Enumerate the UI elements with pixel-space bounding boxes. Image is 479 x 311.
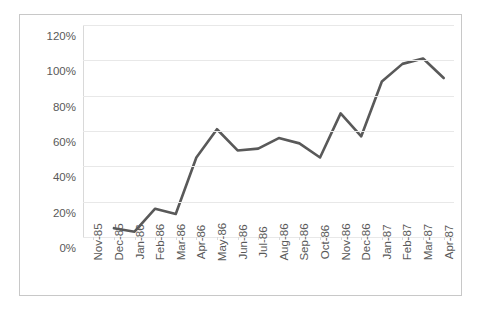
gridline	[83, 25, 454, 26]
x-axis-tick-label: Mar-86	[176, 224, 188, 260]
y-axis-tick-label: 100%	[47, 66, 76, 78]
x-axis-tick-label: Apr-86	[196, 225, 208, 260]
x-axis-tick-label: Jan-86	[135, 224, 147, 259]
x-axis-tick: Dec-85	[107, 240, 121, 292]
y-axis-tick-label: 0%	[59, 243, 76, 255]
x-axis-tick: Jan-86	[128, 240, 142, 292]
x-axis-tick-label: Feb-87	[402, 224, 414, 260]
x-axis-tick: Feb-86	[148, 240, 162, 292]
y-axis-tick-label: 20%	[53, 208, 76, 220]
x-axis-tick-label: Dec-86	[361, 223, 373, 260]
x-axis-tick: May-86	[210, 240, 224, 292]
x-axis-tick-label: Nov-86	[341, 223, 353, 260]
x-axis-tick: Feb-87	[395, 240, 409, 292]
y-axis-tick-label: 60%	[53, 137, 76, 149]
x-axis-tick-label: May-86	[217, 223, 229, 261]
gridline	[83, 131, 454, 132]
x-axis-tick: Apr-86	[189, 240, 203, 292]
x-axis-tick: Dec-86	[354, 240, 368, 292]
x-axis-tick-label: Sep-86	[299, 223, 311, 260]
x-axis-tick: Oct-86	[313, 240, 327, 292]
x-axis-tick: Apr-87	[437, 240, 451, 292]
gridline	[83, 202, 454, 203]
x-axis-tick: Jun-86	[231, 240, 245, 292]
x-axis-tick-label: Mar-87	[423, 224, 435, 260]
x-axis-tick-label: Jan-87	[382, 224, 394, 259]
y-axis-tick-label: 40%	[53, 172, 76, 184]
chart-container: 0%20%40%60%80%100%120% Nov-85Dec-85Jan-8…	[0, 0, 479, 311]
line-series-path	[114, 59, 444, 232]
x-axis-tick-label: Feb-86	[155, 224, 167, 260]
y-axis: 0%20%40%60%80%100%120%	[28, 14, 76, 296]
x-axis-tick-label: Apr-87	[444, 225, 456, 260]
x-axis-tick-label: Aug-86	[279, 223, 291, 260]
x-axis-tick-label: Oct-86	[320, 225, 332, 260]
x-axis-tick: Nov-85	[86, 240, 100, 292]
x-axis-tick: Aug-86	[272, 240, 286, 292]
gridline	[83, 166, 454, 167]
x-axis-tick-label: Jun-86	[238, 224, 250, 259]
x-axis-tick: Nov-86	[334, 240, 348, 292]
plot-area	[83, 25, 454, 237]
y-axis-tick-label: 80%	[53, 102, 76, 114]
y-axis-tick-label: 120%	[47, 31, 76, 43]
x-axis-tick-label: Jul-86	[258, 226, 270, 257]
gridline	[83, 96, 454, 97]
x-axis-tick: Mar-86	[169, 240, 183, 292]
x-axis-tick: Mar-87	[416, 240, 430, 292]
x-axis: Nov-85Dec-85Jan-86Feb-86Mar-86Apr-86May-…	[83, 240, 454, 292]
x-axis-tick: Jul-86	[251, 240, 265, 292]
gridline	[83, 60, 454, 61]
x-axis-tick-label: Nov-85	[93, 223, 105, 260]
x-axis-tick: Jan-87	[375, 240, 389, 292]
x-axis-tick-label: Dec-85	[114, 223, 126, 260]
x-axis-tick: Sep-86	[292, 240, 306, 292]
